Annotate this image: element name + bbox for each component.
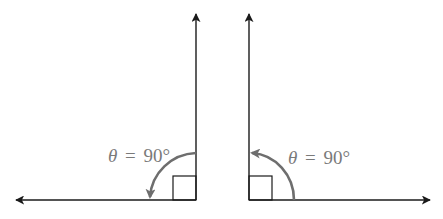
right-angle-diagram: θ = 90° θ = 90° (0, 0, 443, 219)
left-angle-figure: θ = 90° (16, 14, 196, 200)
right-angle-figure: θ = 90° (249, 14, 430, 200)
right-right-angle-marker (249, 176, 272, 200)
left-right-angle-marker (173, 176, 196, 200)
right-angle-label: θ = 90° (288, 147, 350, 168)
left-angle-label: θ = 90° (108, 145, 170, 166)
